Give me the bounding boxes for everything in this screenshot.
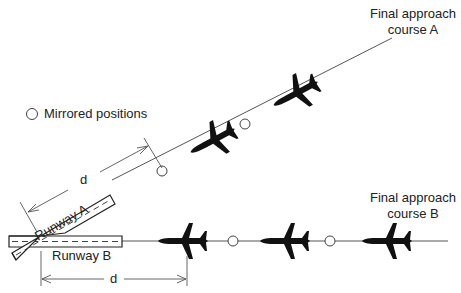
legend-label: Mirrored positions	[44, 106, 147, 122]
aircraft-course-b-2	[260, 223, 310, 259]
runway-b-label: Runway B	[52, 248, 111, 264]
dimension-d-course-a-label: d	[80, 172, 87, 188]
aircraft-course-b-1	[158, 223, 208, 259]
final-approach-course-a-line	[112, 38, 392, 180]
dependent-approach-diagram: Runway A Mirrored positions Final approa…	[0, 0, 461, 293]
course-a-label: Final approach course A	[368, 6, 458, 38]
course-b-label-line2: course B	[368, 206, 458, 222]
course-a-label-line1: Final approach	[368, 6, 458, 22]
course-a-label-line2: course A	[368, 22, 458, 38]
course-b-label: Final approach course B	[368, 190, 458, 222]
aircraft-course-b-3	[362, 223, 412, 259]
aircraft-course-a-1	[182, 113, 243, 168]
aircraft-course-a-2	[265, 66, 326, 121]
dimension-d-course-b-label: d	[110, 271, 117, 287]
legend-mirrored-position-icon	[27, 109, 38, 120]
course-b-label-line1: Final approach	[368, 190, 458, 206]
